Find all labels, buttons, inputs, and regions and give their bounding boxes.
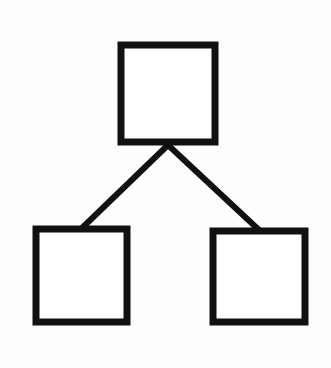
node-boxes [36, 45, 305, 322]
node-box-right [213, 231, 305, 322]
diagram-canvas [0, 0, 331, 368]
node-root [121, 45, 215, 142]
node-right [213, 231, 305, 322]
connector-root-to-right [168, 145, 259, 230]
connector-lines [82, 145, 259, 230]
node-box-left [36, 229, 127, 322]
node-box-root [121, 45, 215, 142]
tree-diagram [0, 0, 331, 368]
connector-root-to-left [82, 145, 168, 228]
node-left [36, 229, 127, 322]
